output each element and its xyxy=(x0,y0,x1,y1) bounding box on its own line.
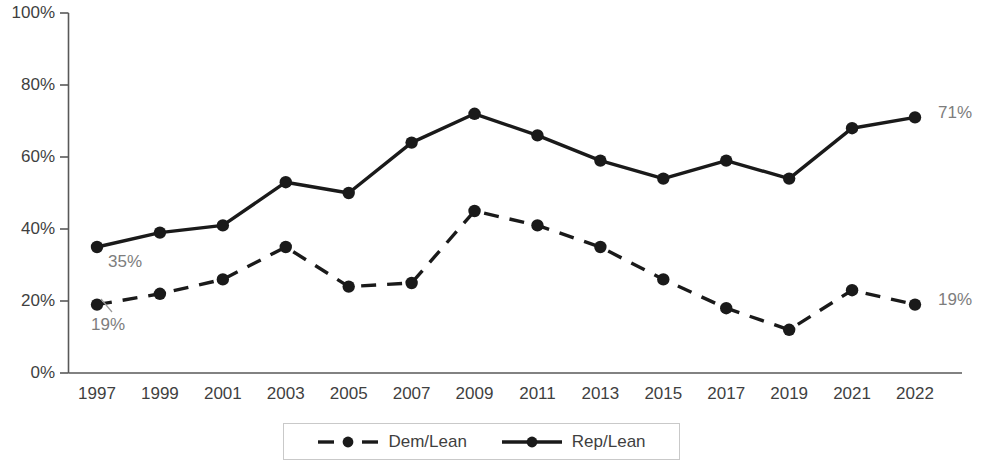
axis-lines xyxy=(69,13,963,373)
data-point-marker[interactable] xyxy=(846,284,858,296)
data-point-marker[interactable] xyxy=(154,226,166,238)
y-axis-tick-label: 40% xyxy=(0,219,55,239)
data-point-marker[interactable] xyxy=(468,108,480,120)
line-chart: 100%80%60%40%20%0% 199719992001200320052… xyxy=(0,0,982,465)
data-point-marker[interactable] xyxy=(594,154,606,166)
y-axis-tick-label: 80% xyxy=(0,75,55,95)
data-point-marker[interactable] xyxy=(531,129,543,141)
data-point-marker[interactable] xyxy=(405,136,417,148)
data-point-marker[interactable] xyxy=(405,277,417,289)
data-point-marker[interactable] xyxy=(846,122,858,134)
data-point-marker[interactable] xyxy=(531,219,543,231)
x-axis-tick-label: 2019 xyxy=(754,384,824,404)
legend-swatch-solid xyxy=(501,434,563,450)
x-axis-tick-label: 2021 xyxy=(817,384,887,404)
data-point-marker[interactable] xyxy=(217,273,229,285)
x-axis-tick-label: 2011 xyxy=(502,384,572,404)
series-rep-lean xyxy=(91,108,921,254)
y-axis-tick-label: 0% xyxy=(0,363,55,383)
x-axis-tick-label: 2009 xyxy=(440,384,510,404)
legend-swatch-dashed xyxy=(317,434,379,450)
dem-end-label: 19% xyxy=(938,290,972,310)
chart-legend: Dem/Lean Rep/Lean xyxy=(283,423,680,460)
x-axis-tick-label: 2003 xyxy=(251,384,321,404)
data-point-marker[interactable] xyxy=(154,288,166,300)
data-point-marker[interactable] xyxy=(783,172,795,184)
legend-label-dem: Dem/Lean xyxy=(388,433,466,450)
legend-item-dem[interactable]: Dem/Lean xyxy=(317,433,466,450)
rep-start-label: 35% xyxy=(108,252,142,272)
data-point-marker[interactable] xyxy=(468,205,480,217)
x-axis-tick-label: 1999 xyxy=(125,384,195,404)
rep-end-label: 71% xyxy=(938,103,972,123)
data-point-marker[interactable] xyxy=(720,154,732,166)
x-axis-tick-label: 2015 xyxy=(628,384,698,404)
y-axis-tick-label: 20% xyxy=(0,291,55,311)
legend-item-rep[interactable]: Rep/Lean xyxy=(501,433,646,450)
data-point-marker[interactable] xyxy=(720,302,732,314)
data-point-marker[interactable] xyxy=(657,273,669,285)
legend-label-rep: Rep/Lean xyxy=(572,433,646,450)
y-axis-tick-marks xyxy=(60,13,69,373)
data-point-marker[interactable] xyxy=(594,241,606,253)
data-point-marker[interactable] xyxy=(909,111,921,123)
series-layer xyxy=(91,108,921,336)
data-point-marker[interactable] xyxy=(91,241,103,253)
x-axis-tick-label: 2022 xyxy=(880,384,950,404)
x-axis-tick-label: 2005 xyxy=(314,384,384,404)
dem-start-label: 19% xyxy=(91,315,125,335)
x-axis-tick-label: 2017 xyxy=(691,384,761,404)
data-point-marker[interactable] xyxy=(909,298,921,310)
data-point-marker[interactable] xyxy=(280,176,292,188)
data-point-marker[interactable] xyxy=(783,324,795,336)
y-axis-tick-label: 60% xyxy=(0,147,55,167)
data-point-marker[interactable] xyxy=(342,187,354,199)
x-axis-tick-label: 2001 xyxy=(188,384,258,404)
data-point-marker[interactable] xyxy=(217,219,229,231)
x-axis-tick-label: 2013 xyxy=(565,384,635,404)
data-point-marker[interactable] xyxy=(342,280,354,292)
x-axis-tick-label: 2007 xyxy=(377,384,447,404)
data-point-marker[interactable] xyxy=(280,241,292,253)
x-axis-tick-label: 1997 xyxy=(62,384,132,404)
data-point-marker[interactable] xyxy=(657,172,669,184)
series-dem-lean xyxy=(91,205,921,336)
y-axis-tick-label: 100% xyxy=(0,3,55,23)
